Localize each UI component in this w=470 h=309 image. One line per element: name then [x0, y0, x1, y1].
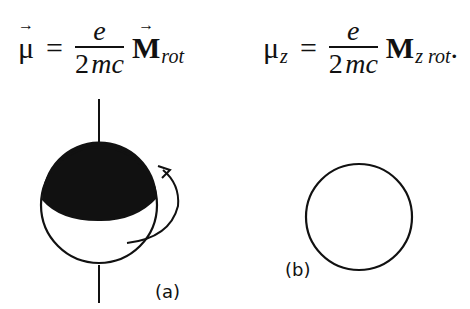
- figure-canvas: (a) (b): [0, 0, 470, 309]
- panel-b: (b): [285, 164, 412, 280]
- label-b: (b): [285, 259, 310, 280]
- shaded-cap: [42, 142, 157, 222]
- label-a: (a): [155, 281, 180, 302]
- panel-a: (a): [41, 99, 180, 303]
- plain-circle: [306, 164, 412, 270]
